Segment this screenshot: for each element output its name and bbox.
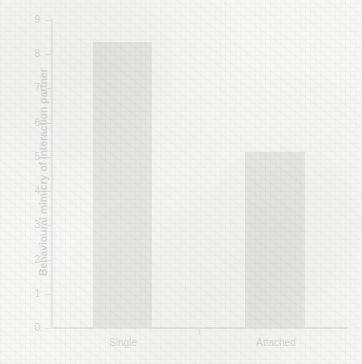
y-axis-line: [51, 19, 53, 329]
x-tick-label-single: Single: [90, 338, 156, 348]
y-tick-label: 0: [18, 323, 40, 333]
y-axis-tick: [45, 328, 52, 329]
bar-chart-figure: 0123456789 Single Attached Behavioural m…: [0, 0, 362, 364]
plot-area: 0123456789 Single Attached Behavioural m…: [0, 0, 362, 364]
y-tick-label: 1: [18, 289, 40, 299]
y-axis-tick: [45, 20, 52, 21]
x-tick-label-attached: Attached: [240, 338, 312, 348]
bar-attached: [245, 152, 305, 329]
bar-single: [93, 42, 152, 329]
y-axis-title: Behavioural mimicry of interaction partn…: [38, 46, 49, 298]
y-tick-label: 9: [18, 15, 40, 25]
x-axis-center-tick: [199, 329, 200, 335]
y-tick-label: 8: [18, 49, 40, 59]
